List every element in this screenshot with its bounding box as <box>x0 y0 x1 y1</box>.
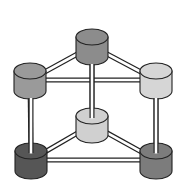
cylinder-nodes <box>14 29 172 179</box>
cylinder-top-right <box>140 63 172 99</box>
prism-lattice-diagram <box>0 0 183 187</box>
cylinder-top-left <box>14 63 46 99</box>
cylinder-top-back <box>76 29 108 65</box>
